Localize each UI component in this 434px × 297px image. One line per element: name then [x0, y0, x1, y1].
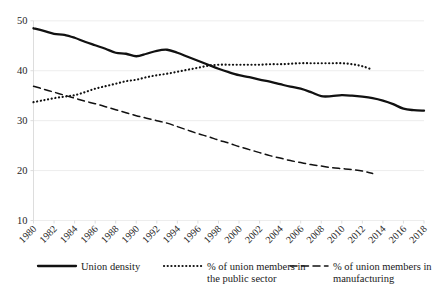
x-tick-label: 1990 [119, 223, 141, 245]
chart-figure: 5040302010198019821984198619881990199219… [0, 0, 434, 297]
x-tick-label: 2000 [222, 223, 244, 245]
x-tick-label: 2008 [304, 223, 326, 245]
legend-label-1: Union density [81, 261, 141, 272]
x-tick-label: 2010 [325, 223, 347, 245]
x-tick-label: 2016 [386, 223, 408, 245]
x-tick-label: 1986 [78, 223, 100, 245]
x-tick-label: 1982 [37, 223, 59, 245]
x-tick-label: 2006 [284, 223, 306, 245]
x-tick-label: 2018 [407, 223, 429, 245]
x-tick-label: 1998 [201, 223, 223, 245]
series-line-1 [34, 28, 425, 110]
line-chart: 5040302010198019821984198619881990199219… [0, 0, 434, 297]
chart-legend: Union density% of union members inthe pu… [38, 261, 432, 284]
legend-label-3: % of union members in [333, 261, 432, 272]
gridlines [34, 21, 425, 221]
x-tick-label: 2004 [263, 223, 285, 245]
x-tick-label: 2014 [366, 223, 388, 245]
x-tick-label: 1980 [16, 223, 38, 245]
x-tick-label: 2002 [243, 223, 265, 245]
y-axis [31, 21, 34, 221]
x-tick-label: 2012 [345, 223, 367, 245]
x-tick-label: 1992 [140, 223, 162, 245]
x-tick-label: 1984 [58, 223, 80, 245]
x-tick-label: 1988 [99, 223, 121, 245]
legend-label-2-line2: the public sector [207, 273, 277, 284]
x-tick-label: 1994 [160, 223, 182, 245]
x-axis-tick-labels: 1980198219841986198819901992199419961998… [16, 221, 428, 246]
y-tick-label: 10 [17, 215, 28, 226]
y-tick-label: 40 [17, 65, 28, 76]
legend-label-3-line2: manufacturing [333, 273, 395, 284]
y-axis-tick-labels: 5040302010 [17, 15, 28, 226]
series-group [34, 28, 425, 173]
x-tick-label: 1996 [181, 223, 203, 245]
y-tick-label: 30 [17, 115, 28, 126]
y-tick-label: 50 [17, 15, 28, 26]
series-line-3 [34, 86, 373, 173]
y-tick-label: 20 [17, 165, 28, 176]
